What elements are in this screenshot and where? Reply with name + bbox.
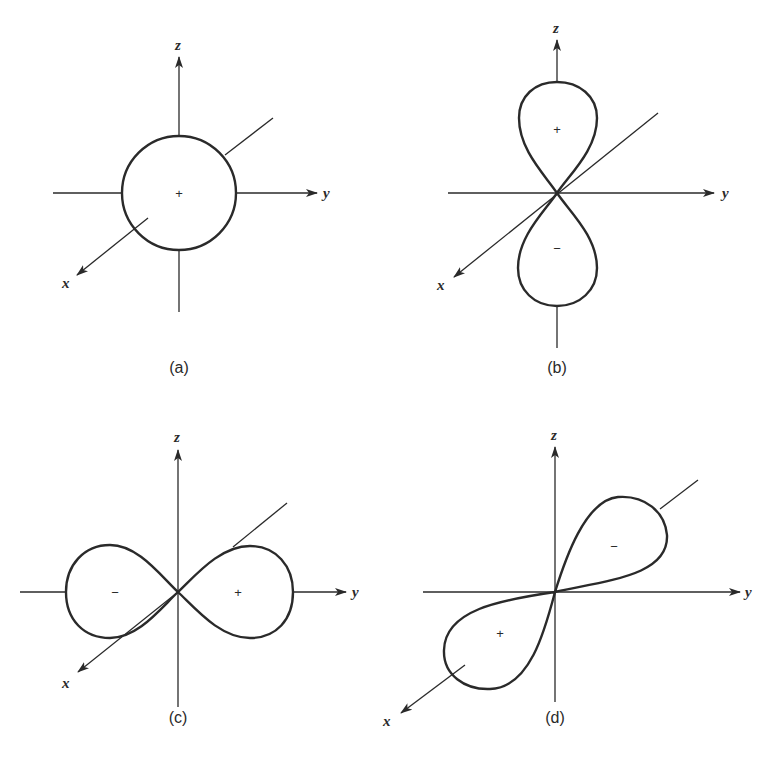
py-lobe-negative: [66, 545, 178, 638]
panel-b: z y x + − (b): [436, 20, 729, 376]
panel-caption: (b): [547, 359, 567, 376]
orbital-figure: z y x + (a) z y x + − (b) z y x − + (c): [0, 0, 767, 760]
x-axis-label: x: [61, 275, 70, 291]
z-axis-label: z: [173, 429, 180, 445]
y-axis-label: y: [321, 185, 330, 201]
phase-sign: +: [175, 186, 183, 201]
y-axis-label: y: [350, 584, 359, 600]
x-axis-label: x: [61, 675, 70, 691]
x-axis-far: [233, 503, 287, 547]
panel-caption: (c): [169, 709, 188, 726]
x-axis-label: x: [382, 713, 391, 729]
panel-caption: (d): [545, 709, 565, 726]
panel-caption: (a): [169, 359, 189, 376]
pz-lobe-positive: [519, 82, 597, 193]
x-axis-far: [660, 480, 698, 509]
x-axis: [77, 218, 148, 275]
phase-sign-negative: −: [610, 539, 618, 554]
panel-a: z y x + (a): [53, 37, 330, 376]
z-axis-label: z: [552, 20, 559, 36]
x-axis: [78, 592, 178, 672]
z-axis-label: z: [174, 37, 181, 53]
panel-d: z y x − + (d): [382, 427, 752, 729]
y-axis-label: y: [743, 584, 752, 600]
phase-sign-positive: +: [496, 626, 504, 641]
y-axis-label: y: [720, 185, 729, 201]
x-axis-far: [225, 118, 273, 155]
phase-sign-positive: +: [553, 122, 561, 137]
phase-sign-positive: +: [234, 585, 242, 600]
phase-sign-negative: −: [553, 241, 561, 256]
panel-c: z y x − + (c): [20, 429, 359, 726]
x-axis: [401, 665, 465, 713]
x-axis-label: x: [436, 277, 445, 293]
z-axis-label: z: [550, 427, 557, 443]
phase-sign-negative: −: [111, 585, 119, 600]
